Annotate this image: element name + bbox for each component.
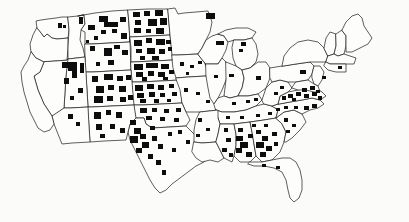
county-mark [136, 72, 143, 77]
county-mark [144, 11, 150, 16]
county-mark [240, 142, 248, 148]
county-mark [142, 142, 149, 148]
county-mark [168, 132, 172, 136]
county-mark [120, 128, 125, 133]
county-mark [156, 160, 161, 165]
state-arkansas [194, 110, 220, 143]
county-mark [155, 10, 163, 16]
county-mark [282, 96, 286, 100]
county-mark [292, 124, 296, 127]
county-mark [312, 104, 317, 108]
county-mark [236, 148, 242, 153]
county-mark [104, 48, 112, 56]
county-mark [152, 136, 157, 141]
county-mark [162, 170, 166, 175]
county-mark [246, 100, 250, 103]
county-mark [134, 128, 141, 134]
county-mark [146, 63, 158, 68]
county-mark [152, 56, 159, 60]
county-mark [148, 154, 153, 159]
county-mark [276, 108, 280, 111]
county-mark [134, 40, 142, 46]
county-mark [114, 45, 120, 49]
county-mark [160, 93, 165, 97]
county-mark [146, 116, 152, 120]
county-mark [288, 94, 293, 98]
county-mark [100, 134, 105, 138]
county-mark [190, 65, 194, 68]
county-mark [135, 20, 141, 25]
us-county-distribution-map [0, 0, 409, 222]
county-mark [262, 136, 268, 141]
county-mark [229, 74, 234, 77]
county-mark [117, 76, 123, 81]
county-mark [135, 85, 143, 91]
county-mark [158, 144, 163, 149]
county-mark [110, 124, 115, 129]
county-mark [224, 128, 228, 132]
county-mark [206, 128, 210, 131]
county-mark [256, 130, 261, 134]
county-mark [256, 142, 264, 148]
county-mark [158, 72, 165, 77]
county-mark [96, 86, 104, 93]
county-mark [198, 61, 202, 64]
county-mark [160, 117, 165, 121]
county-mark [78, 88, 83, 93]
county-mark [96, 124, 102, 130]
county-mark [294, 106, 298, 109]
county-mark [240, 116, 244, 119]
county-mark [168, 47, 172, 51]
county-mark [274, 92, 278, 95]
county-mark [96, 62, 100, 66]
county-mark [172, 92, 177, 96]
county-mark [101, 30, 106, 34]
county-mark [178, 130, 182, 134]
county-mark [206, 13, 215, 19]
state-massachusetts [326, 54, 356, 64]
county-mark [286, 130, 290, 133]
county-mark [186, 140, 190, 144]
county-mark [252, 124, 256, 127]
county-mark [196, 134, 200, 137]
county-mark [160, 18, 167, 25]
county-mark [76, 122, 80, 126]
county-mark [272, 132, 277, 136]
county-mark [119, 86, 126, 92]
county-mark [121, 33, 127, 39]
county-mark [152, 108, 157, 112]
county-mark [167, 99, 171, 102]
county-mark [284, 106, 288, 109]
county-mark [322, 76, 326, 79]
county-mark [241, 42, 246, 46]
county-mark [154, 99, 159, 103]
county-mark [174, 118, 179, 122]
county-mark [274, 142, 278, 146]
county-mark [136, 148, 142, 153]
county-mark [222, 148, 227, 152]
county-mark [184, 88, 188, 92]
county-mark [122, 50, 128, 55]
county-mark [280, 86, 284, 89]
county-mark [214, 75, 218, 78]
county-mark [136, 49, 142, 53]
state-florida [248, 158, 302, 202]
county-mark [156, 28, 164, 34]
county-mark [158, 85, 164, 90]
county-mark [148, 19, 157, 26]
county-mark [112, 29, 117, 33]
county-mark [169, 84, 174, 88]
county-mark [318, 96, 322, 100]
county-mark [58, 23, 62, 28]
county-mark [166, 40, 171, 44]
county-mark [176, 108, 181, 112]
county-mark [149, 92, 155, 97]
county-mark [260, 152, 266, 157]
county-mark [172, 148, 176, 152]
county-mark [316, 90, 320, 93]
county-mark [134, 64, 143, 70]
county-mark [169, 70, 174, 74]
county-mark [300, 70, 306, 74]
county-mark [229, 153, 233, 157]
county-mark [90, 46, 95, 51]
